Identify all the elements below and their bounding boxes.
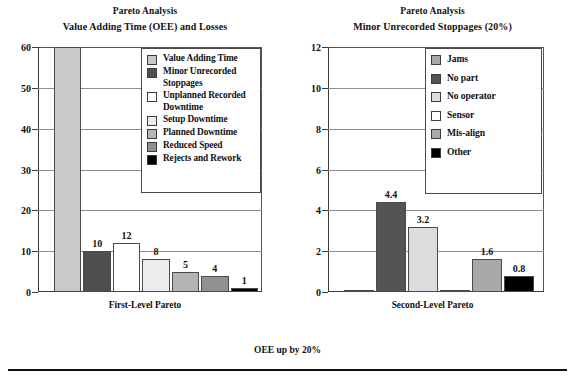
bar — [201, 276, 228, 292]
chart-titles-right: Pareto Analysis Minor Unrecorded Stoppag… — [290, 0, 575, 34]
y-axis-tick-mark — [32, 292, 38, 293]
legend-swatch-icon — [147, 155, 157, 165]
figure-sheet: Pareto Analysis Value Adding Time (OEE) … — [0, 0, 575, 384]
bar — [472, 259, 502, 292]
bar — [376, 202, 406, 292]
bar-value-label: 8 — [154, 246, 159, 257]
legend-swatch-icon — [431, 74, 441, 84]
bar — [83, 251, 110, 292]
legend-item[interactable]: Setup Downtime — [147, 114, 255, 126]
chart-subtitle-left: Value Adding Time (OEE) and Losses — [0, 20, 290, 34]
legend-left: Value Adding TimeMinor Unrecorded Stoppa… — [141, 48, 261, 193]
bar — [54, 47, 81, 292]
legend-item[interactable]: Other — [431, 146, 536, 158]
legend-label: Planned Downtime — [163, 127, 237, 139]
legend-item[interactable]: No operator — [431, 90, 536, 102]
chart-subtitle-right: Minor Unrecorded Stoppages (20%) — [290, 20, 575, 34]
legend-swatch-icon — [147, 55, 157, 65]
chart-caption-left: First-Level Pareto — [0, 300, 290, 310]
bar-value-label: 4 — [212, 263, 217, 274]
bar-value-label: 12 — [122, 230, 132, 241]
bar — [172, 272, 199, 292]
legend-item[interactable]: Jams — [431, 53, 536, 65]
bar-value-label: 10 — [92, 238, 102, 249]
legend-label: No operator — [447, 90, 496, 102]
legend-label: Mis-align — [447, 127, 485, 139]
legend-label: Sensor — [447, 109, 474, 121]
legend-label: Reduced Speed — [163, 140, 222, 152]
legend-item[interactable]: Minor Unrecorded Stoppages — [147, 66, 255, 89]
horizontal-rule — [8, 369, 567, 371]
bar-value-label: 1 — [242, 275, 247, 286]
bar — [142, 259, 169, 292]
legend-item[interactable]: Reduced Speed — [147, 140, 255, 152]
legend-swatch-icon — [147, 68, 157, 78]
chart-caption-right: Second-Level Pareto — [290, 300, 575, 310]
legend-right: JamsNo partNo operatorSensorMis-alignOth… — [425, 48, 542, 194]
chart-title-right: Pareto Analysis — [290, 5, 575, 18]
bar — [408, 227, 438, 292]
legend-swatch-icon — [147, 116, 157, 126]
legend-label: Minor Unrecorded Stoppages — [163, 66, 255, 89]
legend-swatch-icon — [147, 92, 157, 102]
legend-label: Other — [447, 146, 471, 158]
legend-swatch-icon — [431, 92, 441, 102]
bar-value-label: 1.6 — [481, 246, 494, 257]
bar — [231, 288, 258, 292]
legend-swatch-icon — [431, 111, 441, 121]
legend-swatch-icon — [431, 129, 441, 139]
legend-label: Value Adding Time — [163, 53, 238, 65]
bar — [440, 290, 470, 293]
legend-item[interactable]: Sensor — [431, 109, 536, 121]
bar-value-label: 0.8 — [513, 263, 526, 274]
bar-value-label: 5 — [183, 259, 188, 270]
chart-panel-first-level: Pareto Analysis Value Adding Time (OEE) … — [0, 0, 290, 330]
legend-item[interactable]: No part — [431, 72, 536, 84]
chart-titles-left: Pareto Analysis Value Adding Time (OEE) … — [0, 0, 290, 34]
footer-note: OEE up by 20% — [0, 345, 575, 355]
bar — [344, 290, 374, 293]
legend-swatch-icon — [431, 55, 441, 65]
legend-item[interactable]: Planned Downtime — [147, 127, 255, 139]
legend-label: No part — [447, 72, 478, 84]
legend-item[interactable]: Rejects and Rework — [147, 153, 255, 165]
bar — [504, 276, 534, 292]
legend-swatch-icon — [147, 142, 157, 152]
chart-title-left: Pareto Analysis — [0, 5, 290, 18]
legend-item[interactable]: Unplanned Recorded Downtime — [147, 90, 255, 113]
bar — [113, 243, 140, 292]
legend-label: Unplanned Recorded Downtime — [163, 90, 255, 113]
bar-value-label: 4.4 — [385, 189, 398, 200]
legend-item[interactable]: Value Adding Time — [147, 53, 255, 65]
legend-label: Rejects and Rework — [163, 153, 241, 165]
legend-swatch-icon — [431, 148, 441, 158]
y-axis-tick-mark — [322, 292, 328, 293]
legend-item[interactable]: Mis-align — [431, 127, 536, 139]
legend-label: Jams — [447, 53, 468, 65]
bar-value-label: 3.2 — [417, 214, 430, 225]
legend-swatch-icon — [147, 129, 157, 139]
legend-label: Setup Downtime — [163, 114, 227, 126]
